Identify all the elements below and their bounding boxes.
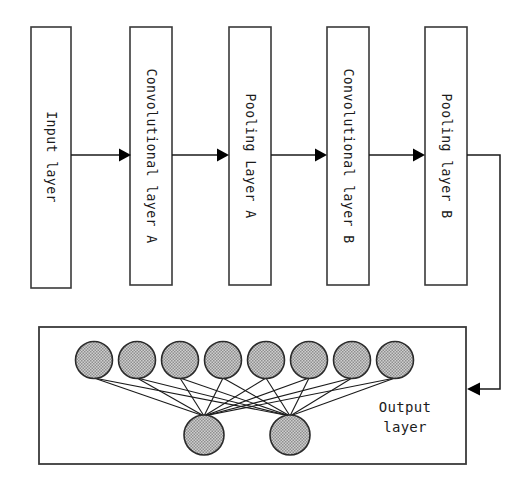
neuron-node[interactable] bbox=[205, 342, 242, 379]
pooling-layer-b-label: Pooling layer B bbox=[439, 93, 454, 218]
pooling-layer-a-label: Pooling Layer A bbox=[243, 93, 258, 218]
diagram-canvas: Input layer Convolutional layer A Poolin… bbox=[0, 0, 527, 487]
input-layer-label: Input layer bbox=[44, 111, 59, 203]
arrow-conv-a-to-pool-a bbox=[172, 149, 229, 162]
arrow-conv-b-to-pool-b bbox=[369, 149, 425, 162]
neuron-node[interactable] bbox=[248, 342, 285, 379]
connector-pool-b-to-output bbox=[467, 155, 500, 396]
neuron-node[interactable] bbox=[334, 342, 371, 379]
output-layer-label-line2: layer bbox=[383, 419, 427, 435]
neuron-node[interactable] bbox=[377, 342, 414, 379]
layer-box-input-layer[interactable]: Input layer bbox=[31, 27, 71, 288]
neuron-node[interactable] bbox=[119, 342, 156, 379]
layer-box-conv-layer-b[interactable]: Convolutional layer B bbox=[327, 27, 369, 285]
neuron-node[interactable] bbox=[162, 342, 199, 379]
arrow-input-to-conv-a bbox=[71, 149, 131, 162]
layer-box-pooling-layer-b[interactable]: Pooling layer B bbox=[425, 27, 467, 285]
arrow-pool-a-to-conv-b bbox=[271, 149, 327, 162]
neuron-node[interactable] bbox=[291, 342, 328, 379]
diagram-root: Input layer Convolutional layer A Poolin… bbox=[0, 0, 527, 487]
layer-box-pooling-layer-a[interactable]: Pooling Layer A bbox=[229, 27, 271, 285]
output-layer-label-line1: Output bbox=[379, 399, 431, 415]
neuron-node[interactable] bbox=[76, 342, 113, 379]
conv-layer-b-label: Convolutional layer B bbox=[341, 68, 356, 243]
layer-box-conv-layer-a[interactable]: Convolutional layer A bbox=[130, 27, 172, 285]
conv-layer-a-label: Convolutional layer A bbox=[144, 68, 159, 243]
output-neuron-node[interactable] bbox=[270, 415, 310, 455]
pipeline-boxes: Input layer Convolutional layer A Poolin… bbox=[31, 27, 467, 288]
output-neuron-node[interactable] bbox=[184, 415, 224, 455]
